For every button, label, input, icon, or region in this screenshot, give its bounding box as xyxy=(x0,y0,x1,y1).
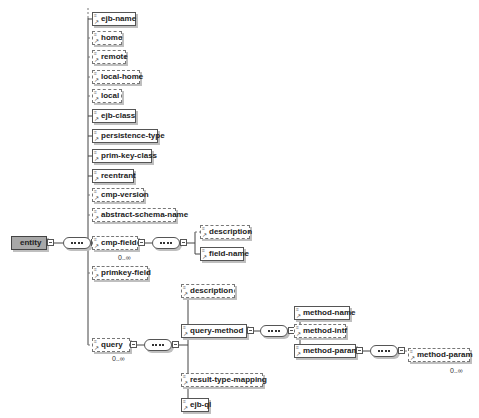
sequence-compositor[interactable] xyxy=(370,345,398,357)
sequence-compositor[interactable] xyxy=(260,325,288,337)
element-type-icon: ≡ xyxy=(202,248,205,253)
schema-element[interactable]: ≡↗method-name xyxy=(294,306,350,320)
element-type-icon: ≡ xyxy=(183,325,186,330)
element-label: persistence-type xyxy=(101,131,165,140)
element-type-icon: ≡ xyxy=(183,374,186,379)
element-link-icon: ↗ xyxy=(94,19,99,25)
collapse-toggle-icon[interactable] xyxy=(138,239,145,246)
element-link-icon: ↗ xyxy=(183,331,188,337)
element-link-icon: ↗ xyxy=(94,243,99,249)
schema-element[interactable]: ≡↗ejb-name xyxy=(92,12,136,26)
element-link-icon: ↗ xyxy=(94,116,99,122)
element-link-icon: ↗ xyxy=(94,77,99,83)
collapse-toggle-icon[interactable] xyxy=(398,347,405,354)
element-label: local-home xyxy=(101,72,143,81)
schema-element[interactable]: entity xyxy=(11,236,47,250)
schema-element[interactable]: ≡↗description xyxy=(200,225,250,239)
schema-element[interactable]: ≡↗prim-key-class xyxy=(92,149,152,163)
collapse-toggle-icon[interactable] xyxy=(247,327,254,334)
schema-element[interactable]: ≡↗ejb-class xyxy=(92,109,136,123)
cardinality-label: 0..∞ xyxy=(112,355,125,362)
element-type-icon: ≡ xyxy=(410,349,413,354)
schema-element[interactable]: ≡↗home xyxy=(92,31,122,45)
element-label: local xyxy=(101,91,119,100)
element-label: remote xyxy=(101,52,128,61)
element-type-icon: ≡ xyxy=(296,325,299,330)
element-link-icon: ↗ xyxy=(94,176,99,182)
sequence-compositor[interactable] xyxy=(63,237,91,249)
element-label: description xyxy=(209,227,252,236)
sequence-icon xyxy=(71,242,83,246)
element-link-icon: ↗ xyxy=(202,232,207,238)
element-type-icon: ≡ xyxy=(94,237,97,242)
element-label: home xyxy=(101,33,122,42)
element-link-icon: ↗ xyxy=(296,331,301,337)
schema-element[interactable]: ≡↗description xyxy=(181,284,235,298)
schema-element[interactable]: ≡↗method-params xyxy=(294,344,356,358)
sequence-compositor[interactable] xyxy=(144,339,172,351)
element-type-icon: ≡ xyxy=(202,226,205,231)
sequence-icon xyxy=(160,242,172,246)
collapse-toggle-icon[interactable] xyxy=(47,239,54,246)
sequence-icon xyxy=(268,330,280,334)
element-label: method-name xyxy=(303,308,355,317)
element-label: reentrant xyxy=(101,171,136,180)
element-link-icon: ↗ xyxy=(183,380,188,386)
schema-element[interactable]: ≡↗method-param xyxy=(408,348,470,362)
schema-element[interactable]: ≡↗query xyxy=(92,338,130,352)
element-link-icon: ↗ xyxy=(94,345,99,351)
schema-element[interactable]: ≡↗local xyxy=(92,89,122,103)
element-type-icon: ≡ xyxy=(94,209,97,214)
element-label: ejb-ql xyxy=(190,400,211,409)
sequence-compositor[interactable] xyxy=(152,237,180,249)
element-link-icon: ↗ xyxy=(202,254,207,260)
element-type-icon: ≡ xyxy=(94,51,97,56)
collapse-toggle-icon[interactable] xyxy=(172,341,179,348)
element-type-icon: ≡ xyxy=(94,32,97,37)
schema-element[interactable]: ≡↗remote xyxy=(92,50,126,64)
schema-element[interactable]: ≡↗query-method xyxy=(181,324,247,338)
element-type-icon: ≡ xyxy=(296,307,299,312)
element-type-icon: ≡ xyxy=(94,90,97,95)
element-label: prim-key-class xyxy=(101,151,157,160)
element-link-icon: ↗ xyxy=(296,313,301,319)
element-label: ejb-class xyxy=(101,111,135,120)
element-type-icon: ≡ xyxy=(94,71,97,76)
element-label: ejb-name xyxy=(101,14,136,23)
collapse-toggle-icon[interactable] xyxy=(356,347,363,354)
element-link-icon: ↗ xyxy=(94,195,99,201)
schema-element[interactable]: ≡↗cmp-version xyxy=(92,188,144,202)
element-type-icon: ≡ xyxy=(94,150,97,155)
element-link-icon: ↗ xyxy=(183,405,188,411)
element-type-icon: ≡ xyxy=(94,130,97,135)
schema-element[interactable]: ≡↗ejb-ql xyxy=(181,398,209,412)
element-type-icon: ≡ xyxy=(94,170,97,175)
schema-element[interactable]: ≡↗result-type-mapping xyxy=(181,373,263,387)
element-link-icon: ↗ xyxy=(94,156,99,162)
element-label: description xyxy=(190,286,233,295)
element-link-icon: ↗ xyxy=(94,96,99,102)
collapse-toggle-icon[interactable] xyxy=(130,341,137,348)
schema-element[interactable]: ≡↗reentrant xyxy=(92,169,134,183)
cardinality-label: 0..∞ xyxy=(450,367,463,374)
collapse-toggle-icon[interactable] xyxy=(180,239,187,246)
element-link-icon: ↗ xyxy=(183,291,188,297)
element-type-icon: ≡ xyxy=(94,339,97,344)
element-type-icon: ≡ xyxy=(183,285,186,290)
schema-diagram: entity≡↗ejb-name≡↗home≡↗remote≡↗local-ho… xyxy=(0,0,479,418)
schema-element[interactable]: ≡↗persistence-type xyxy=(92,129,158,143)
element-label: cmp-version xyxy=(101,190,149,199)
schema-element[interactable]: ≡↗method-intf xyxy=(294,324,346,338)
schema-element[interactable]: ≡↗field-name xyxy=(200,247,244,261)
schema-element[interactable]: ≡↗abstract-schema-name xyxy=(92,208,176,222)
element-link-icon: ↗ xyxy=(410,355,415,361)
schema-element[interactable]: ≡↗local-home xyxy=(92,70,140,84)
element-label: result-type-mapping xyxy=(190,375,267,384)
element-label: entity xyxy=(20,238,41,247)
element-type-icon: ≡ xyxy=(94,267,97,272)
element-link-icon: ↗ xyxy=(94,215,99,221)
element-link-icon: ↗ xyxy=(94,136,99,142)
sequence-icon xyxy=(378,350,390,354)
schema-element[interactable]: ≡↗primkey-field xyxy=(92,266,148,280)
schema-element[interactable]: ≡↗cmp-field xyxy=(92,236,138,250)
